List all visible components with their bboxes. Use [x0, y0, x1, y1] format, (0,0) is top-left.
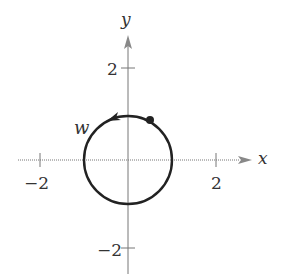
x-tick-label-neg2: −2 [24, 173, 49, 193]
y-tick-label-2: 2 [107, 59, 118, 79]
y-axis-label: y [120, 9, 131, 29]
marked-point [146, 116, 154, 124]
x-axis-arrow-icon [238, 156, 252, 164]
y-tick-label-neg2: −2 [97, 240, 122, 260]
curve-label-w: w [74, 117, 90, 138]
x-axis-label: x [258, 148, 268, 168]
x-tick-label-2: 2 [211, 173, 222, 193]
graph: −2 2 2 −2 x y w [0, 0, 281, 279]
